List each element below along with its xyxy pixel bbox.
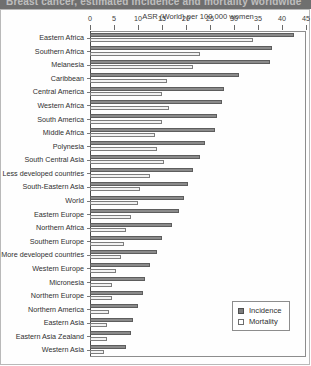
bar-mortality [90,296,112,300]
y-axis-tick [87,173,90,174]
bar-mortality [90,283,112,287]
category-label: World [0,196,87,205]
x-axis-tick [234,25,235,30]
y-axis-tick [87,38,90,39]
bar-group: Polynesia [90,141,306,154]
legend-label-incidence: Incidence [249,306,282,315]
bar-mortality [90,38,253,42]
bar-incidence [90,209,179,213]
bar-group: South America [90,114,306,127]
category-label: Northern Europe [0,291,87,300]
category-label: Middle Africa [0,128,87,137]
bar-group: Less developed countries [90,168,306,181]
y-axis-tick [87,255,90,256]
x-axis-tick-label: 20 [182,14,190,23]
legend-item-incidence: Incidence [238,305,282,316]
bar-incidence [90,155,200,159]
bar-incidence [90,46,272,50]
bar-group: Eastern Asia Zealand [90,331,306,344]
y-axis-tick [87,350,90,351]
bar-incidence [90,345,126,349]
y-axis-tick [87,201,90,202]
y-axis-tick [87,146,90,147]
bar-mortality [90,228,126,232]
bar-group: Western Africa [90,100,306,113]
x-axis-tick [258,25,259,30]
bar-mortality [90,160,164,164]
bar-incidence [90,236,162,240]
bar-mortality [90,323,107,327]
bar-group: Eastern Africa [90,33,306,46]
category-label: Northern Africa [0,223,87,232]
bar-group: Western Europe [90,263,306,276]
bar-incidence [90,223,172,227]
category-label: Western Africa [0,101,87,110]
bar-group: South-Eastern Asia [90,182,306,195]
bar-incidence [90,277,145,281]
x-axis-tick [138,25,139,30]
bar-incidence [90,318,133,322]
category-label: Western Asia [0,345,87,354]
bar-group: Melanesia [90,60,306,73]
bar-incidence [90,250,157,254]
bar-group: Middle Africa [90,128,306,141]
header-strip-text: Breast cancer, estimated incidence and m… [6,0,302,7]
bar-incidence [90,87,224,91]
category-label: Southern Africa [0,47,87,56]
y-axis-tick [87,309,90,310]
x-axis-tick-label: 10 [134,14,142,23]
y-axis-tick [87,78,90,79]
x-axis-tick [306,25,307,30]
bar-mortality [90,201,138,205]
category-label: Polynesia [0,142,87,151]
y-axis-tick [87,92,90,93]
y-axis-tick [87,160,90,161]
bar-incidence [90,100,222,104]
bar-incidence [90,182,188,186]
y-axis-tick [87,228,90,229]
bar-incidence [90,196,184,200]
bar-group: Southern Africa [90,46,306,59]
x-axis-tick-label: 35 [254,14,262,23]
y-axis-tick [87,323,90,324]
legend-label-mortality: Mortality [249,317,278,326]
y-axis-tick [87,241,90,242]
bar-mortality [90,215,131,219]
bar-group: South Central Asia [90,155,306,168]
x-axis-tick-label: 5 [112,14,116,23]
bar-group: More developed countries [90,250,306,263]
category-label: Northern America [0,305,87,314]
bar-incidence [90,141,205,145]
category-label: Southern Europe [0,237,87,246]
x-axis-tick [210,25,211,30]
bar-mortality [90,269,116,273]
chart-legend: Incidence Mortality [232,301,290,331]
bar-mortality [90,350,104,354]
bar-incidence [90,331,131,335]
bar-mortality [90,65,193,69]
category-label: Western Europe [0,264,87,273]
category-label: Micronesia [0,278,87,287]
bar-group: Central America [90,87,306,100]
bar-incidence [90,114,217,118]
category-label: Caribbean [0,74,87,83]
y-axis-tick [87,268,90,269]
bar-incidence [90,304,138,308]
bar-mortality [90,106,169,110]
y-axis-tick [87,105,90,106]
category-label: Less developed countries [0,169,87,178]
category-label: Eastern Europe [0,210,87,219]
bar-mortality [90,337,107,341]
x-axis-tick [162,25,163,30]
category-label: South-Eastern Asia [0,182,87,191]
x-axis-tick-label: 0 [88,14,92,23]
category-label: Melanesia [0,60,87,69]
bar-mortality [90,79,167,83]
bar-incidence [90,291,143,295]
x-axis-tick [282,25,283,30]
bar-mortality [90,147,157,151]
bar-mortality [90,255,121,259]
x-axis-tick [186,25,187,30]
bar-mortality [90,242,124,246]
category-label: Eastern Africa [0,33,87,42]
